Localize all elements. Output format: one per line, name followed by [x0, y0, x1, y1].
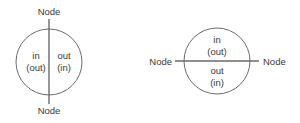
left-half-line2: (out): [26, 62, 46, 73]
bottom-node-label: Node: [38, 105, 61, 116]
right-half-line2: (in): [57, 62, 71, 73]
diagram-canvas: Node Node in (out) out (in) Node Node in…: [0, 0, 300, 123]
left-node-label: Node: [149, 56, 172, 67]
top-half-line1: in: [213, 34, 220, 45]
right-node-label: Node: [263, 56, 286, 67]
bottom-half-line2: (in): [210, 77, 224, 88]
bottom-half-line1: out: [210, 65, 224, 76]
horizontal-split-diagram: Node Node in (out) out (in): [149, 28, 285, 94]
right-half-line1: out: [57, 50, 71, 61]
top-node-label: Node: [38, 6, 61, 17]
top-half-line2: (out): [207, 46, 227, 57]
left-half-line1: in: [32, 50, 39, 61]
vertical-split-diagram: Node Node in (out) out (in): [16, 6, 82, 116]
